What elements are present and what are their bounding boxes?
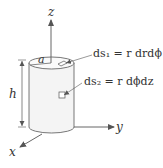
cylinder <box>29 57 74 133</box>
radius-label: a <box>38 54 45 65</box>
z-axis-label: z <box>48 6 54 18</box>
cylinder-diagram: z y x a h ds₁ = r drdϕ ds₂ = r dϕdz <box>0 0 163 168</box>
height-dimension <box>18 60 26 127</box>
x-axis-label: x <box>9 146 16 158</box>
height-label: h <box>9 88 17 100</box>
ds1-equation: ds₁ = r drdϕ <box>93 48 162 59</box>
ds2-equation: ds₂ = r dϕdz <box>84 76 153 87</box>
y-axis-label: y <box>116 121 123 133</box>
x-axis <box>20 134 42 147</box>
